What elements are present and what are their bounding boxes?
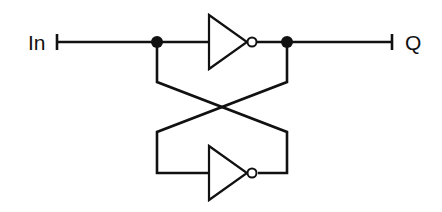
junction-right [281,36,293,48]
inverter-loop-diagram: In Q [0,0,442,212]
junction-left [151,36,163,48]
feedback-wire-right [157,42,287,173]
output-label: Q [405,31,421,54]
inverter-top-bubble [248,38,257,47]
inverter-bottom [209,146,257,200]
inverter-bottom-triangle [209,146,247,200]
inverter-top [209,15,257,69]
inverter-top-triangle [209,15,247,69]
input-label: In [28,31,46,54]
inverter-bottom-bubble [248,169,257,178]
